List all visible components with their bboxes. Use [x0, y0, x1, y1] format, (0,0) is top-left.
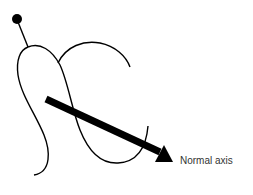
pivot-dot [12, 14, 22, 24]
upper-arc [58, 42, 130, 67]
main-curve [28, 46, 148, 164]
left-curve [17, 47, 48, 175]
normal-axis-label: Normal axis [180, 155, 233, 166]
normal-axis-arrow-shaft [46, 99, 160, 152]
stem-line [18, 22, 28, 47]
